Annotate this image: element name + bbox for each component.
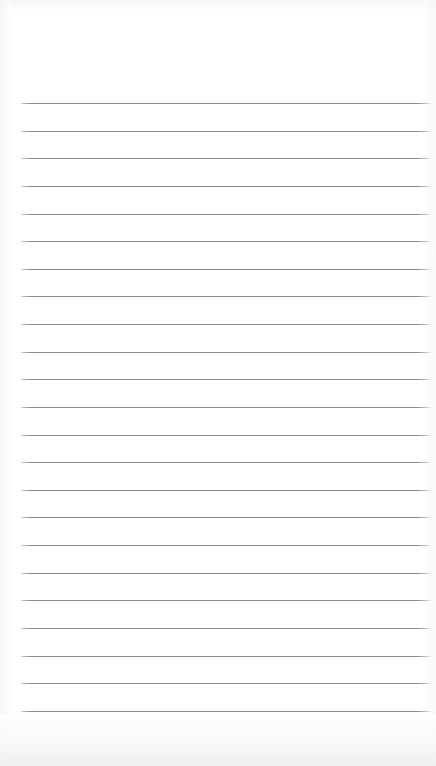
- rule-line: [20, 462, 432, 463]
- rule-line: [20, 131, 432, 132]
- rule-line: [20, 103, 432, 104]
- rule-line: [20, 683, 432, 684]
- rule-line: [20, 158, 432, 159]
- rule-line: [20, 435, 432, 436]
- rule-line: [20, 407, 432, 408]
- rule-line: [20, 324, 432, 325]
- rule-line: [20, 379, 432, 380]
- rule-line: [20, 600, 432, 601]
- rule-line: [20, 186, 432, 187]
- rule-line: [20, 490, 432, 491]
- rule-line: [20, 269, 432, 270]
- rule-line: [20, 296, 432, 297]
- rule-line: [20, 241, 432, 242]
- rule-line: [20, 711, 432, 712]
- rule-line: [20, 656, 432, 657]
- rule-line: [20, 573, 432, 574]
- rule-line: [20, 628, 432, 629]
- ruled-writing-area[interactable]: [0, 0, 436, 766]
- note-paper-sheet: [0, 0, 436, 766]
- rule-line: [20, 517, 432, 518]
- rule-line: [20, 214, 432, 215]
- rule-line: [20, 545, 432, 546]
- rule-line: [20, 352, 432, 353]
